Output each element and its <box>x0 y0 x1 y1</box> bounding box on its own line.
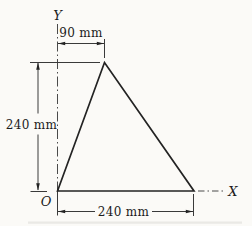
y-axis-label: Y <box>53 8 63 23</box>
origin-label: O <box>41 194 52 209</box>
triangle-diagram: 90 mm 240 mm 240 mm Y X O <box>0 0 252 226</box>
arrowhead-up-icon <box>36 63 40 70</box>
bottom-width-label: 240 mm <box>98 205 150 219</box>
arrowhead-right-icon <box>97 42 104 46</box>
arrowhead-down-icon <box>36 183 40 190</box>
triangle-outline <box>58 63 195 192</box>
dimension-left-height: 240 mm <box>6 63 100 192</box>
left-height-label: 240 mm <box>6 118 58 132</box>
arrowhead-left-icon <box>58 210 65 214</box>
scan-artifact-streak <box>28 222 242 224</box>
arrowhead-left-icon <box>58 42 65 46</box>
top-width-label: 90 mm <box>59 26 103 40</box>
arrowhead-right-icon <box>186 210 193 214</box>
x-axis-label: X <box>227 184 238 199</box>
diagram-canvas: 90 mm 240 mm 240 mm Y X O <box>0 0 252 226</box>
dimension-bottom-width: 240 mm <box>58 194 194 219</box>
dimension-top-width: 90 mm <box>58 26 105 58</box>
